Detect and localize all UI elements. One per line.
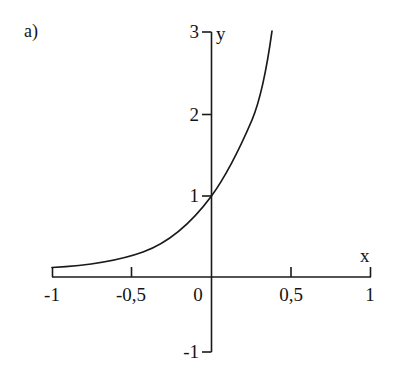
x-tick-label-0: 0 [193, 285, 203, 304]
x-tick-label--1: -1 [44, 285, 60, 304]
y-tick-label-2: 2 [190, 105, 200, 124]
plot-canvas [0, 0, 399, 383]
x-tick-label--0-5: -0,5 [116, 285, 146, 304]
y-axis-label: y [216, 24, 226, 43]
y-tick-label-1: 1 [190, 186, 200, 205]
x-tick-label-0-5: 0,5 [279, 285, 303, 304]
figure-panel: a) x y -1 -0,5 0 0,5 1 3 2 1 -1 [0, 0, 399, 383]
x-axis-label: x [360, 246, 370, 265]
panel-label: a) [24, 22, 38, 40]
x-tick-label-1: 1 [365, 285, 375, 304]
y-tick-label--1: -1 [183, 342, 199, 361]
exponential-curve [52, 31, 272, 268]
y-tick-label-3: 3 [190, 22, 200, 41]
